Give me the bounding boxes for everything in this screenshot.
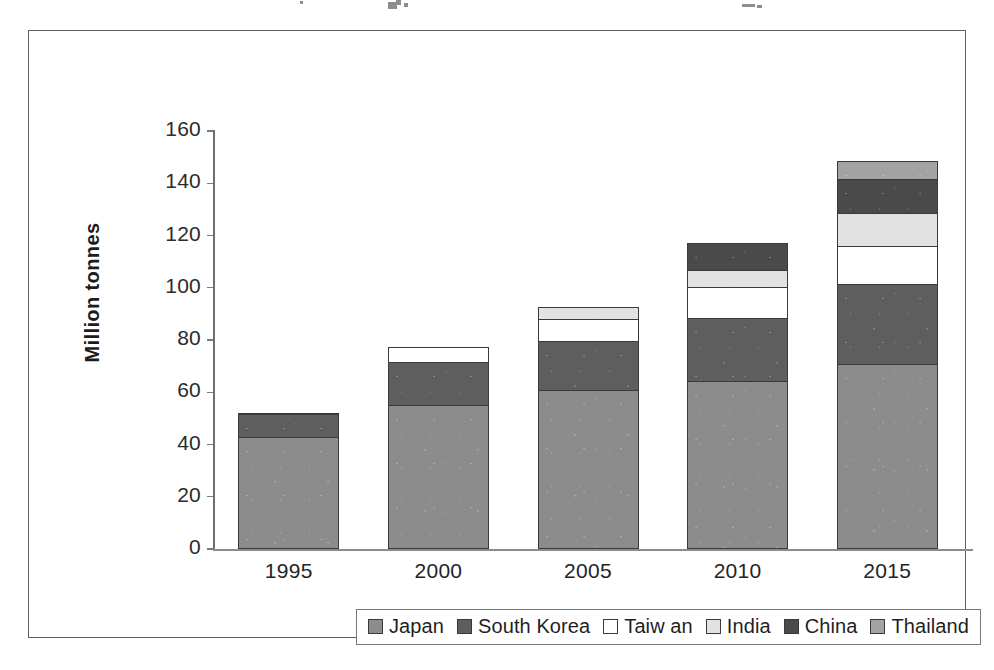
legend-item-thailand[interactable]: Thailand xyxy=(870,615,969,638)
x-axis-tick-label: 2015 xyxy=(807,559,967,583)
stacked-bar[interactable] xyxy=(388,349,489,549)
figure-frame: Million tonnes 020406080100120140160 199… xyxy=(28,30,966,638)
y-axis-tick-label: 160 xyxy=(91,117,201,141)
bar-segment-india[interactable] xyxy=(538,307,639,320)
bar-segment-taiw-an[interactable] xyxy=(538,319,639,343)
bar-segment-china[interactable] xyxy=(687,243,788,272)
bar-segment-india[interactable] xyxy=(837,213,938,247)
x-axis-tick-label: 1995 xyxy=(209,559,369,583)
bar-segment-taiw-an[interactable] xyxy=(687,287,788,318)
legend-label: China xyxy=(805,615,858,638)
scan-speck xyxy=(742,4,755,7)
x-axis-tick-label: 2005 xyxy=(508,559,668,583)
legend-swatch-icon xyxy=(457,619,472,634)
scan-speck xyxy=(757,5,762,8)
legend-swatch-icon xyxy=(603,619,618,634)
bar-segment-japan[interactable] xyxy=(388,405,489,549)
bar-segment-india[interactable] xyxy=(687,270,788,288)
bar-segment-south-korea[interactable] xyxy=(388,362,489,406)
scan-artifacts xyxy=(0,0,994,14)
chart-legend: JapanSouth KoreaTaiw anIndiaChinaThailan… xyxy=(356,609,981,645)
y-axis-tick-labels: 020406080100120140160 xyxy=(81,31,201,637)
y-axis-tick-label: 140 xyxy=(91,169,201,193)
y-axis-tick-label: 20 xyxy=(91,483,201,507)
bar-segment-japan[interactable] xyxy=(238,437,339,549)
legend-label: South Korea xyxy=(478,615,590,638)
legend-label: Taiw an xyxy=(624,615,693,638)
legend-label: Thailand xyxy=(891,615,969,638)
bar-segment-japan[interactable] xyxy=(687,381,788,550)
plot-area xyxy=(214,131,962,549)
legend-item-south-korea[interactable]: South Korea xyxy=(457,615,590,638)
legend-swatch-icon xyxy=(870,619,885,634)
y-axis-tick-label: 120 xyxy=(91,222,201,246)
stacked-bar[interactable] xyxy=(238,414,339,549)
legend-swatch-icon xyxy=(706,619,721,634)
y-axis-tick-label: 40 xyxy=(91,431,201,455)
x-axis-tick-label: 2000 xyxy=(358,559,518,583)
stacked-bar[interactable] xyxy=(687,244,788,549)
bar-segment-south-korea[interactable] xyxy=(687,318,788,382)
stacked-bar[interactable] xyxy=(837,162,938,549)
legend-item-china[interactable]: China xyxy=(784,615,858,638)
bar-segment-thailand[interactable] xyxy=(837,161,938,179)
y-axis-tick-label: 80 xyxy=(91,326,201,350)
y-axis-tick-label: 60 xyxy=(91,378,201,402)
legend-label: India xyxy=(727,615,771,638)
scan-speck xyxy=(300,1,303,4)
scan-speck xyxy=(396,0,401,5)
y-axis-tick-label: 100 xyxy=(91,274,201,298)
bar-segment-japan[interactable] xyxy=(538,390,639,549)
bar-segment-japan[interactable] xyxy=(837,364,938,549)
legend-item-india[interactable]: India xyxy=(706,615,771,638)
scan-speck xyxy=(404,3,408,7)
legend-swatch-icon xyxy=(784,619,799,634)
x-axis-tick-label: 2010 xyxy=(658,559,818,583)
y-axis-tick-label: 0 xyxy=(91,535,201,559)
legend-item-japan[interactable]: Japan xyxy=(368,615,444,638)
bar-segment-south-korea[interactable] xyxy=(837,284,938,365)
bar-segment-taiw-an[interactable] xyxy=(238,413,339,416)
legend-item-taiw-an[interactable]: Taiw an xyxy=(603,615,693,638)
bar-segment-south-korea[interactable] xyxy=(238,414,339,438)
legend-swatch-icon xyxy=(368,619,383,634)
bar-segment-south-korea[interactable] xyxy=(538,341,639,391)
stacked-bar[interactable] xyxy=(538,308,639,549)
legend-label: Japan xyxy=(389,615,444,638)
x-axis-line xyxy=(213,549,973,551)
bar-segment-taiw-an[interactable] xyxy=(388,347,489,363)
bar-segment-taiw-an[interactable] xyxy=(837,246,938,285)
bar-segment-china[interactable] xyxy=(837,179,938,214)
